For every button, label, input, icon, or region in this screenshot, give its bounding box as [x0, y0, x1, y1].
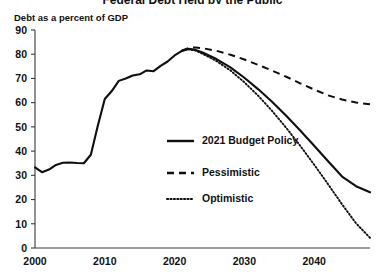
- x-tick-label: 2020: [163, 255, 187, 267]
- legend-label: Pessimistic: [202, 166, 260, 178]
- y-tick-label: 70: [15, 72, 27, 84]
- chart-container: Federal Debt Held by the Public Debt as …: [0, 0, 385, 272]
- legend-label: Optimistic: [202, 192, 254, 204]
- plot-area: 0102030405060708090 20002010202020302040…: [0, 0, 385, 272]
- x-tick-label: 2010: [93, 255, 117, 267]
- y-tick-label: 20: [15, 193, 27, 205]
- y-tick-label: 40: [15, 145, 27, 157]
- y-axis-ticks: 0102030405060708090: [15, 24, 35, 254]
- y-tick-label: 50: [15, 121, 27, 133]
- x-axis-ticks: 20002010202020302040: [23, 255, 326, 267]
- y-tick-label: 80: [15, 48, 27, 60]
- y-tick-label: 30: [15, 169, 27, 181]
- x-tick-label: 2030: [233, 255, 257, 267]
- x-tick-label: 2000: [23, 255, 47, 267]
- y-tick-label: 10: [15, 218, 27, 230]
- legend-label: 2021 Budget Policy: [202, 134, 298, 146]
- y-tick-label: 60: [15, 96, 27, 108]
- x-tick-label: 2040: [302, 255, 326, 267]
- y-tick-label: 90: [15, 24, 27, 36]
- chart-legend: 2021 Budget PolicyPessimisticOptimistic: [167, 134, 298, 204]
- y-tick-label: 0: [21, 242, 27, 254]
